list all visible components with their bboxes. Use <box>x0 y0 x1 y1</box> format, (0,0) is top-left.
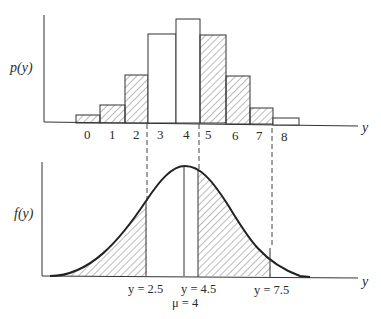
tick-4: 4 <box>183 127 190 142</box>
bar-7 <box>250 108 273 124</box>
bar-4 <box>176 19 200 123</box>
bar-6 <box>226 76 250 124</box>
annotation-y-7-5: y = 7.5 <box>254 283 289 297</box>
histogram-tick-labels: 0 1 2 3 4 5 6 7 8 <box>84 127 288 144</box>
tick-8: 8 <box>281 129 288 144</box>
shaded-left-tail <box>40 150 147 277</box>
annotation-mu: μ = 4 <box>172 296 199 310</box>
tick-3: 3 <box>157 127 164 142</box>
tick-5: 5 <box>205 127 212 142</box>
tick-1: 1 <box>109 127 116 142</box>
tick-7: 7 <box>256 128 263 143</box>
bar-0 <box>76 115 100 123</box>
tick-2: 2 <box>133 127 140 142</box>
normal-curve <box>50 166 310 277</box>
annotation-y-4-5: y = 4.5 <box>181 282 216 296</box>
top-y-label: p(y) <box>9 60 33 76</box>
bar-8 <box>273 118 299 125</box>
bar-2 <box>125 75 148 123</box>
bar-1 <box>100 105 125 123</box>
top-x-label: y <box>360 120 369 135</box>
bottom-y-label: f(y) <box>14 206 34 222</box>
shaded-right-region <box>198 150 271 277</box>
bar-3 <box>148 34 176 123</box>
normal-approximation-figure: p(y) y 0 1 2 3 4 5 6 7 8 <box>0 0 381 319</box>
bottom-x-label: y <box>360 274 369 289</box>
annotation-y-2-5: y = 2.5 <box>128 282 163 296</box>
density-panel: f(y) y y = 2.5 y = 4.5 y = 7.5 μ = 4 <box>14 150 369 310</box>
tick-0: 0 <box>84 127 91 142</box>
bar-5 <box>200 35 226 123</box>
histogram-bars <box>76 19 299 125</box>
histogram-panel: p(y) y 0 1 2 3 4 5 6 7 8 <box>9 15 369 144</box>
bottom-x-axis <box>42 276 358 278</box>
tick-6: 6 <box>232 128 239 143</box>
